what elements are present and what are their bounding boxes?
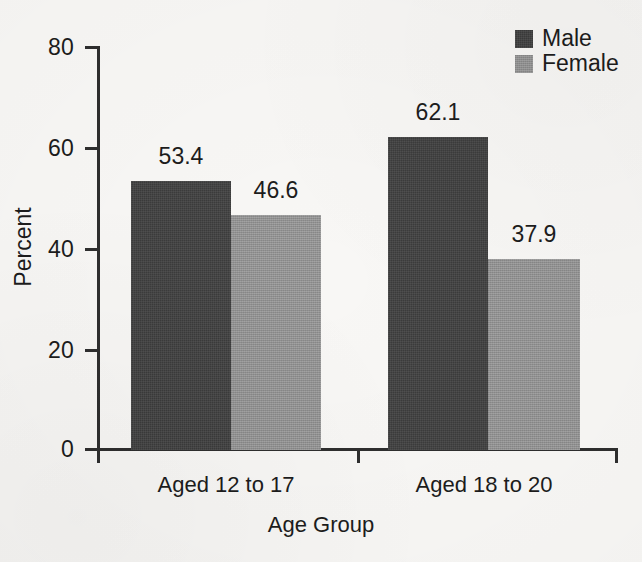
- legend-label-female: Female: [542, 52, 619, 75]
- legend-swatch-male-icon: [515, 30, 533, 48]
- legend-swatch-female-icon: [515, 55, 533, 73]
- y-axis-label-60: 60: [20, 135, 74, 162]
- bar-value-male-aged-12-to-17: 53.4: [131, 143, 231, 170]
- y-axis-label-20: 20: [20, 337, 74, 364]
- legend-item-male[interactable]: Male: [515, 26, 619, 51]
- bar-male-aged-12-to-17[interactable]: [131, 181, 231, 450]
- x-axis-category-aged-12-to-17: Aged 12 to 17: [126, 472, 326, 498]
- y-axis-label-80: 80: [20, 34, 74, 61]
- y-axis-tick-40: [85, 248, 98, 251]
- legend: Male Female: [515, 26, 619, 76]
- bar-value-female-aged-12-to-17: 46.6: [231, 177, 321, 204]
- x-axis-category-aged-18-to-20: Aged 18 to 20: [384, 472, 584, 498]
- bar-female-aged-12-to-17[interactable]: [231, 215, 321, 450]
- y-axis-title-wrap: Percent: [6, 182, 40, 312]
- y-axis-tick-20: [85, 349, 98, 352]
- x-axis-title: Age Group: [0, 512, 642, 538]
- x-axis-tick-end: [615, 451, 618, 463]
- legend-label-male: Male: [542, 27, 592, 50]
- y-axis-title: Percent: [10, 207, 37, 286]
- y-axis-label-0: 0: [20, 436, 74, 463]
- bar-value-female-aged-18-to-20: 37.9: [488, 221, 580, 248]
- y-axis-tick-60: [85, 147, 98, 150]
- bar-male-aged-18-to-20[interactable]: [388, 137, 488, 450]
- x-axis-tick-middle: [357, 451, 360, 463]
- bar-chart: 80 60 40 20 0 Percent 53.4 46.6 62.1 37.…: [0, 0, 642, 562]
- bar-value-male-aged-18-to-20: 62.1: [388, 99, 488, 126]
- legend-item-female[interactable]: Female: [515, 51, 619, 76]
- plot-area: 80 60 40 20 0 Percent 53.4 46.6 62.1 37.…: [0, 0, 642, 562]
- bar-female-aged-18-to-20[interactable]: [488, 259, 580, 450]
- y-axis-tick-80: [85, 46, 98, 49]
- x-axis-tick-start: [97, 451, 100, 463]
